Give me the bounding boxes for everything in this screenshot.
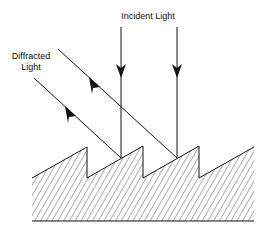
diffracted-light-label-line2: Light [21,62,41,72]
incident-light-label: Incident Light [121,11,175,21]
diffraction-diagram: Incident Light Diffracted Light [0,0,268,233]
diffracted-light-label-line1: Diffracted [12,51,50,61]
diffracted-ray-2 [34,78,121,158]
diffracted-ray-1-arrowhead [89,77,100,94]
diffracted-ray-2-arrowhead [65,106,76,123]
